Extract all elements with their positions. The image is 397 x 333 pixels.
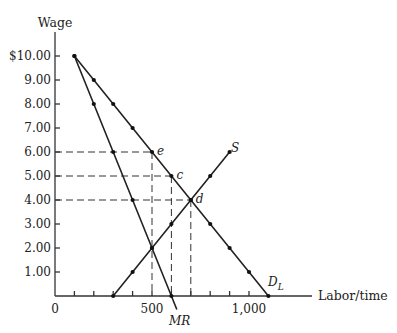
y-axis-title: Wage xyxy=(38,15,73,30)
point-label-d: d xyxy=(196,192,204,206)
y-axis-ticks: $10.009.008.007.006.005.004.003.002.001.… xyxy=(9,49,60,279)
data-point xyxy=(228,246,232,250)
data-point xyxy=(266,294,270,298)
data-point xyxy=(169,294,173,298)
y-tick-label: 3.00 xyxy=(24,217,51,231)
y-tick-label: 4.00 xyxy=(24,193,51,207)
y-tick-label: 1.00 xyxy=(24,265,51,279)
data-point xyxy=(208,222,212,226)
y-tick-label: 7.00 xyxy=(24,121,51,135)
data-point xyxy=(111,102,115,106)
data-point xyxy=(150,246,154,250)
curve-label-mr: MR xyxy=(168,314,190,328)
data-point xyxy=(169,222,173,226)
curve-label-d-l: DL xyxy=(267,275,284,292)
point-label-e: e xyxy=(157,144,164,158)
x-axis-title: Labor/time xyxy=(318,288,388,303)
labor-market-chart: $10.009.008.007.006.005.004.003.002.001.… xyxy=(0,0,397,333)
y-tick-label: $10.00 xyxy=(9,49,51,63)
data-point xyxy=(111,150,115,154)
x-tick-label: 1,000 xyxy=(232,302,266,316)
y-tick-label: 9.00 xyxy=(24,73,51,87)
data-point xyxy=(92,78,96,82)
y-tick-label: 8.00 xyxy=(24,97,51,111)
y-tick-label: 2.00 xyxy=(24,241,51,255)
x-axis-ticks: 05001,000 xyxy=(51,291,266,316)
data-point xyxy=(131,270,135,274)
data-point xyxy=(92,102,96,106)
data-point xyxy=(131,198,135,202)
curve-label-s: S xyxy=(231,141,239,155)
data-point xyxy=(208,174,212,178)
data-point xyxy=(247,270,251,274)
data-point xyxy=(150,150,154,154)
data-point xyxy=(111,294,115,298)
axes: $10.009.008.007.006.005.004.003.002.001.… xyxy=(9,15,388,316)
curve-and-point-labels: DLMRSecd xyxy=(157,141,284,328)
point-label-c: c xyxy=(176,168,183,182)
data-point xyxy=(131,126,135,130)
data-point xyxy=(72,54,76,58)
y-tick-label: 5.00 xyxy=(24,169,51,183)
curve-mr xyxy=(74,56,176,309)
x-tick-label: 0 xyxy=(51,302,59,316)
x-tick-label: 500 xyxy=(141,302,164,316)
y-tick-label: 6.00 xyxy=(24,145,51,159)
data-point xyxy=(189,198,193,202)
data-point xyxy=(169,174,173,178)
